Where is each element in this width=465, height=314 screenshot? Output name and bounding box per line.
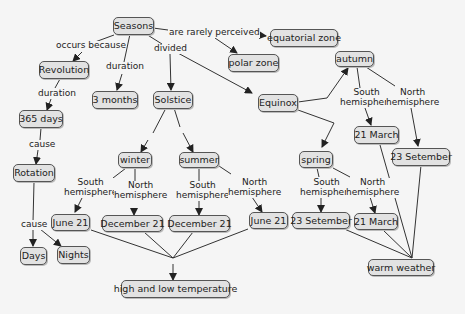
node-23-september-autumn[interactable]: 23 Setember [392, 148, 450, 166]
node-autumn[interactable]: autumn [335, 51, 374, 67]
node-spring[interactable]: spring [299, 151, 333, 168]
node-21-march-autumn[interactable]: 21 March [354, 126, 399, 144]
link-label-duration: duration [106, 62, 144, 72]
link-text: South hemisphere [64, 177, 117, 197]
node-june-21-winter[interactable]: June 21 [51, 214, 90, 231]
node-polar-zone[interactable]: polar zone [228, 54, 279, 72]
node-23-september-spring[interactable]: 23 Setember [292, 212, 350, 229]
link-label-south-hemisphere: South hemisphere [64, 178, 117, 198]
node-june-21-summer[interactable]: June 21 [249, 212, 288, 229]
link-label-divided: divided [154, 44, 187, 54]
node-solstice[interactable]: Solstice [153, 91, 193, 109]
concept-map: occurs because duration divided are rare… [0, 0, 465, 314]
link-label-cause: cause [29, 140, 55, 150]
node-revolution[interactable]: Revolution [39, 61, 89, 79]
node-days[interactable]: Days [20, 247, 47, 265]
node-rotation[interactable]: Rotation [13, 164, 55, 182]
node-warm-weather[interactable]: warm weather [368, 259, 434, 276]
link-text: North hemisphere [346, 177, 399, 197]
node-winter[interactable]: winter [118, 152, 152, 168]
link-label-occurs-because: occurs because [56, 41, 126, 51]
node-summer[interactable]: summer [179, 152, 219, 168]
node-equinox[interactable]: Equinox [258, 94, 298, 112]
link-text: South hemisphere [176, 180, 229, 200]
node-december-21-winter[interactable]: December 21 [102, 215, 163, 232]
node-equatorial-zone[interactable]: equatorial zone [270, 29, 338, 47]
node-nights[interactable]: Nights [57, 246, 90, 264]
node-seasons[interactable]: Seasons [113, 17, 154, 35]
link-text: North hemisphere [228, 177, 281, 197]
link-label-are-rarely-perceived: are rarely perceived [169, 28, 260, 38]
node-21-march-spring[interactable]: 21 March [354, 213, 398, 230]
link-label-north-hemisphere: North hemisphere [386, 88, 439, 108]
link-label-north-hemisphere: North hemisphere [346, 178, 399, 198]
link-label-north-hemisphere: North hemisphere [114, 181, 167, 201]
link-label-north-hemisphere: North hemisphere [228, 178, 281, 198]
node-december-21-summer[interactable]: December 21 [169, 215, 230, 232]
link-text: North hemisphere [386, 87, 439, 107]
link-label-duration: duration [38, 89, 76, 99]
node-365-days[interactable]: 365 days [19, 110, 63, 128]
node-high-and-low-temperature[interactable]: high and low temperature [121, 280, 230, 298]
node-3-months[interactable]: 3 months [92, 91, 138, 109]
link-label-cause: cause [21, 220, 47, 230]
link-label-south-hemisphere: South hemisphere [176, 181, 229, 201]
link-text: North hemisphere [114, 180, 167, 200]
